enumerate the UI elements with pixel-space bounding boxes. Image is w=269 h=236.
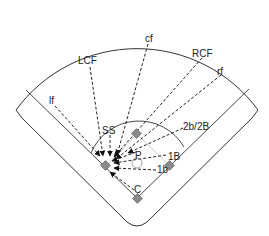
throw-1b-lower	[114, 168, 156, 170]
throw-rcf	[114, 58, 202, 157]
label-lcf: LCF	[78, 55, 97, 66]
throw-lf	[55, 106, 100, 156]
throw-c	[110, 172, 134, 190]
label-rf: rf	[217, 66, 223, 77]
label-1b-upper: 1B	[168, 151, 181, 162]
first-base-foul-line	[137, 89, 249, 198]
label-ss: SS	[102, 125, 116, 136]
label-p: P	[135, 150, 142, 161]
label-rcf: RCF	[192, 48, 213, 59]
third-base-foul-line	[26, 90, 137, 198]
label-lf: lf	[49, 95, 54, 106]
baseball-field-diagram: lf LCF cf RCF rf SS 2b/2B P 1B 1b C	[0, 0, 269, 236]
label-c: C	[134, 184, 141, 195]
label-cf: cf	[145, 33, 153, 44]
third-base	[101, 161, 111, 171]
label-2b: 2b/2B	[183, 121, 209, 132]
label-1b-lower: 1b	[157, 164, 169, 175]
throw-rf	[116, 75, 221, 159]
